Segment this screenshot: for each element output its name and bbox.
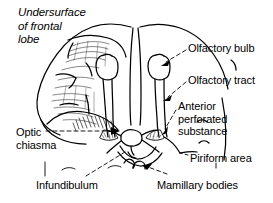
label-optic-chiasma-line-2: chiasma <box>16 139 56 151</box>
right-bulb-inner-junction <box>155 79 164 80</box>
figure-title-line-3: lobe <box>18 33 39 45</box>
piriform-hook-b <box>199 141 209 143</box>
left-orbital-sulcus-4 <box>86 63 92 76</box>
sketch-mark-lower-left <box>62 168 75 170</box>
left-orbital-sulcus-6 <box>86 95 89 114</box>
label-anterior-perforated-substance-line-2: perforated <box>178 113 227 125</box>
infundibulum-stalk <box>131 146 134 155</box>
optic-chiasma-outline <box>121 130 142 146</box>
label-optic-chiasma: Opticchiasma <box>16 126 56 151</box>
anatomy-figure: Undersurfaceof frontallobe Olfactory bul… <box>0 0 273 203</box>
longitudinal-fissure-left <box>130 28 133 125</box>
left-olfactory-bulb-tract <box>96 55 118 137</box>
posterior-orbital-shading <box>73 116 114 131</box>
label-olfactory-bulb: Olfactory bulb <box>188 42 254 55</box>
label-anterior-perforated-substance: Anteriorperforatedsubstance <box>178 100 227 138</box>
left-orbital-sulcus-5 <box>60 104 78 106</box>
arrowhead-optic-chiasma <box>111 127 120 135</box>
label-olfactory-tract: Olfactory tract <box>188 74 255 87</box>
leader-infundibulum-dashed <box>86 152 125 176</box>
label-anterior-perforated-substance-line-1: Anterior <box>178 100 216 112</box>
label-optic-chiasma-line-1: Optic <box>16 126 41 138</box>
right-uncus-outline <box>164 137 180 153</box>
sketch-mark-lower-mid <box>108 166 121 168</box>
leader-anterior-perforated-substance <box>165 110 176 129</box>
tuber-cinereum <box>120 146 156 159</box>
arrowhead-mamillary-bodies <box>142 164 152 170</box>
olfactory-bulb-leader-hook <box>231 60 236 70</box>
right-olfactory-bulb-tract <box>148 55 170 137</box>
leader-olfactory-tract <box>168 82 186 97</box>
left-orbital-sulcus-3 <box>69 78 76 88</box>
left-bulb-tip <box>104 54 112 56</box>
left-bulb-inner-junction <box>103 79 112 80</box>
label-piriform-area: Piriform area <box>190 152 252 165</box>
label-infundibulum: Infundibulum <box>36 179 98 192</box>
label-anterior-perforated-substance-line-3: substance <box>178 125 227 137</box>
leader-mamillary-bodies <box>148 167 167 174</box>
longitudinal-fissure-right <box>138 28 141 125</box>
figure-title-line-2: of frontal <box>18 20 62 32</box>
optic-tract-right <box>142 140 159 152</box>
figure-title-line-1: Undersurface <box>18 6 86 18</box>
label-mamillary-bodies: Mamillary bodies <box>157 179 238 192</box>
leader-piriform-area <box>180 153 188 155</box>
optic-tract-left <box>107 141 121 153</box>
figure-title: Undersurfaceof frontallobe <box>18 6 86 47</box>
right-bulb-tip <box>156 54 164 56</box>
